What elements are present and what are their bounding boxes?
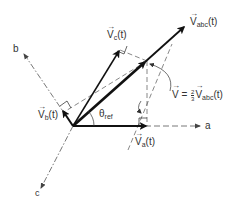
vector-arrow-icon: → (107, 23, 115, 31)
axis-a-label: a (205, 121, 211, 131)
vector-vc-label: →Vc(t) (107, 30, 127, 41)
leader-va-tip (139, 101, 142, 113)
two-thirds-fraction: 23 (191, 89, 194, 102)
vector-arrow-icon: → (195, 82, 203, 90)
vector-vabc-label: →Vabc(t) (190, 17, 217, 28)
vector-arrow-icon: → (190, 10, 198, 18)
axis-c-label: c (35, 189, 40, 198)
vector-v-equation-label: →V = 23→Vabc(t) (172, 89, 223, 102)
axis-c (41, 126, 73, 188)
vector-vb (63, 111, 73, 126)
vector-vabc (145, 27, 184, 62)
axis-b-label: b (13, 44, 19, 54)
vector-arrow-icon: → (38, 103, 46, 111)
vector-va-label: →Va(t) (135, 137, 155, 148)
vector-arrow-icon: → (135, 130, 143, 138)
leader-v-label (150, 64, 171, 91)
vector-arrow-icon: → (172, 82, 180, 90)
projection-lines (64, 44, 172, 150)
vector-vb-label: →Vb(t) (38, 110, 58, 121)
theta-ref-label: θref (99, 109, 113, 120)
